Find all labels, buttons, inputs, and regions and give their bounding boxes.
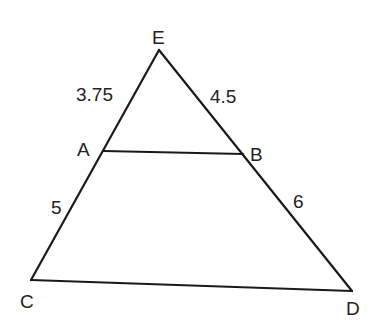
vertex-label-d: D [346, 298, 360, 319]
length-label-ac: 5 [51, 197, 62, 218]
vertex-label-a: A [77, 139, 90, 160]
segment-ab [104, 151, 243, 154]
side-cd [31, 280, 352, 291]
length-label-eb: 4.5 [210, 86, 236, 107]
vertex-label-b: B [250, 144, 263, 165]
triangle-diagram: E A B C D 3.75 4.5 5 6 [0, 0, 384, 332]
vertex-label-c: C [20, 291, 34, 312]
side-ed [159, 50, 352, 291]
vertex-label-e: E [152, 27, 165, 48]
length-label-bd: 6 [293, 191, 304, 212]
length-label-ea: 3.75 [76, 84, 113, 105]
